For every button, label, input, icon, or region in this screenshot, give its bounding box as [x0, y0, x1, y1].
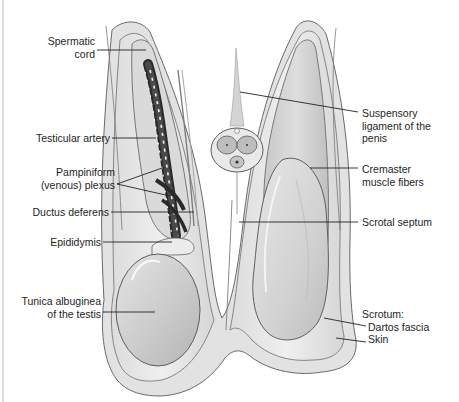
label-pampiniform-plexus: Pampiniform (venous) plexus	[8, 166, 115, 191]
suspensory-ligament-shape	[230, 48, 244, 126]
label-suspensory-ligament: Suspensory ligament of the penis	[362, 107, 431, 145]
label-ductus-deferens: Ductus deferens	[8, 206, 109, 219]
label-cremaster: Cremaster muscle fibers	[362, 163, 424, 188]
label-testicular-artery: Testicular artery	[8, 132, 110, 145]
anatomy-figure: Spermatic cord Testicular artery Pampini…	[0, 0, 459, 402]
label-scrotal-septum: Scrotal septum	[362, 216, 432, 229]
label-dartos-fascia: Dartos fascia	[362, 321, 429, 334]
label-skin: Skin	[362, 333, 429, 346]
left-testis	[116, 254, 200, 366]
label-scrotum: Scrotum: Dartos fascia Skin	[362, 308, 429, 346]
label-tunica-albuginea: Tunica albuginea of the testis	[8, 295, 101, 320]
label-scrotum-heading: Scrotum:	[362, 308, 429, 321]
label-epididymis: Epididymis	[8, 236, 101, 249]
label-spermatic-cord: Spermatic cord	[8, 35, 95, 60]
